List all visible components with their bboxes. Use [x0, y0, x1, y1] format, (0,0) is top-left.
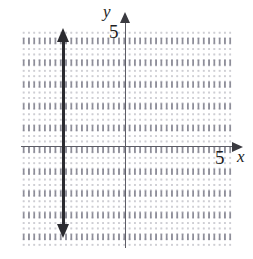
major-gridlines: [21, 30, 233, 248]
coordinate-grid: [21, 30, 233, 248]
x-axis: [21, 146, 234, 147]
plotted-line: [62, 40, 65, 226]
y-axis-tick-label: 5: [109, 22, 119, 41]
graph-figure: y x 5 5: [0, 0, 253, 259]
x-axis-tick-label: 5: [215, 148, 225, 167]
plotted-line-arrow-down-icon: [57, 224, 69, 238]
y-axis: [125, 22, 126, 248]
y-axis-label: y: [103, 3, 111, 20]
y-axis-arrow-icon: [120, 12, 130, 23]
x-axis-label: x: [237, 148, 245, 165]
plotted-line-arrow-up-icon: [57, 28, 69, 42]
